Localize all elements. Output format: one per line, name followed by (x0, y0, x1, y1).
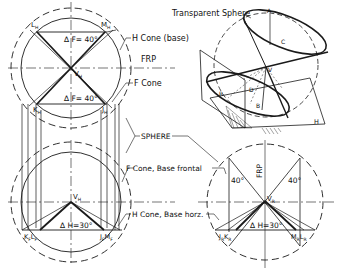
pictorial-view: Transparent Sphere A C V (171, 1, 332, 134)
label-JK-side: JRKR (218, 233, 231, 242)
label-KL-front: KFLF (24, 233, 37, 242)
label-V-top: VH (74, 70, 82, 79)
callout-f-cone-base-frontal: F Cone, Base frontal (126, 164, 202, 173)
plane-label-H: H (314, 118, 319, 126)
callout-frp-top: FRP (141, 55, 156, 64)
side-view: VR 40° 40° ∆ H=30° FRP JRKR MRLR (198, 140, 337, 268)
point-C: C (281, 38, 285, 45)
projection-lines (22, 104, 119, 230)
callout-f-cone: F Cone (134, 79, 162, 88)
callout-h-cone-base: H Cone (base) (132, 34, 189, 43)
top-view: LH MH KH JH VH ∆ F= 40° ∆ F= 40° (8, 2, 175, 130)
pictorial-title: Transparent Sphere (171, 9, 250, 18)
transparent-sphere (214, 13, 318, 117)
callout-h-cone-base-horz: H Cone, Base horz. (132, 210, 203, 219)
label-M: MH (101, 21, 110, 30)
label-L: LH (31, 21, 38, 30)
callouts: H Cone (base) FRP F Cone SPHERE F Cone, … (112, 34, 226, 226)
label-JM-front: JFMF (99, 233, 113, 242)
point-D: D (249, 86, 254, 93)
frp-label-vertical: FRP (255, 163, 264, 178)
angle-label-bottom: ∆ F= 40° (63, 94, 98, 103)
angle-label-top: ∆ F= 40° (63, 35, 98, 44)
angle-label-right: 40° (288, 176, 302, 185)
front-view: VH ∆ H=30° KFLF JFMF (8, 140, 175, 264)
label-V-side: VR (267, 195, 275, 204)
diagram-canvas: LH MH KH JH VH ∆ F= 40° ∆ F= 40° VH ∆ H=… (0, 0, 337, 270)
angle-label-side-bottom: ∆ H=30° (249, 221, 283, 230)
plane-label-R: R (219, 90, 223, 97)
callout-sphere: SPHERE (141, 132, 171, 141)
label-J: JH (101, 106, 107, 115)
angle-label-front: ∆ H=30° (59, 221, 93, 230)
label-ML-side: MRLR (291, 233, 307, 242)
hatch-lines-2 (262, 128, 281, 134)
angle-label-left: 40° (231, 176, 245, 185)
label-V-front: VH (73, 193, 81, 202)
point-B: B (256, 102, 260, 109)
point-V: V (268, 66, 273, 73)
